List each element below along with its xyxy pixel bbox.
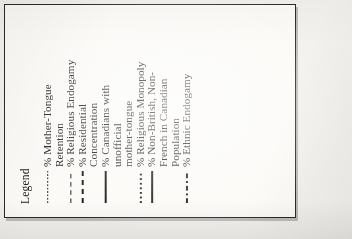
legend-title: Legend (19, 5, 31, 204)
legend-rotated-content: Legend % Mother-Tongue Retention% Religi… (5, 5, 295, 217)
legend-entry-label: % Non-British, Non- French in Canadian P… (146, 72, 181, 168)
legend-entry-label: % Residential Concentration (77, 103, 100, 168)
legend-entry: % Mother-Tongue Retention (42, 5, 65, 204)
line-style-swatch-dotted-fine-icon (42, 168, 54, 204)
legend-entry: % Non-British, Non- French in Canadian P… (146, 5, 181, 204)
legend-entry-label: % Canadians with unofficial mother-tongu… (100, 85, 135, 168)
legend-entries: % Mother-Tongue Retention% Religious End… (42, 5, 193, 204)
legend-entry: % Ethnic Endogamy (181, 5, 193, 204)
line-style-swatch-solid-thick-icon (100, 168, 112, 204)
line-style-swatch-dash-heavy-icon (77, 168, 89, 204)
legend-entry-label: % Mother-Tongue Retention (42, 84, 65, 168)
legend-entry: % Canadians with unofficial mother-tongu… (100, 5, 135, 204)
line-style-swatch-dashed-icon (65, 168, 77, 204)
line-style-swatch-solid-med-icon (146, 168, 158, 204)
legend-box: Legend % Mother-Tongue Retention% Religi… (4, 4, 296, 218)
legend-entry: % Residential Concentration (77, 5, 100, 204)
line-style-swatch-dash-dot-icon (181, 168, 193, 204)
line-style-swatch-dotted-square-icon (135, 168, 147, 204)
scanned-page: Legend % Mother-Tongue Retention% Religi… (0, 0, 352, 239)
legend-entry-label: % Ethnic Endogamy (181, 74, 193, 168)
